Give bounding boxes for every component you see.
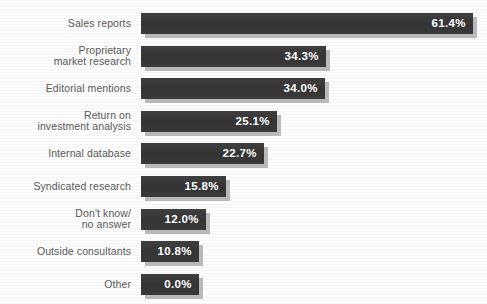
bar: 12.0%	[141, 209, 206, 230]
category-label: Editorial mentions	[0, 83, 131, 95]
category-label: Sales reports	[0, 18, 131, 30]
bar: 25.1%	[141, 111, 277, 132]
category-label: Outside consultants	[0, 246, 131, 258]
chart-row: Syndicated research15.8%	[0, 176, 487, 197]
chart-row: Proprietary market research34.3%	[0, 46, 487, 67]
chart-row: Editorial mentions34.0%	[0, 78, 487, 99]
bar-value-label: 12.0%	[164, 209, 199, 230]
category-label: Internal database	[0, 148, 131, 160]
chart-row: Sales reports61.4%	[0, 13, 487, 34]
bar: 15.8%	[141, 176, 226, 197]
bar-value-label: 10.8%	[157, 241, 192, 262]
bar-value-label: 0.0%	[164, 274, 192, 295]
category-label: Don't know/ no answer	[0, 208, 131, 231]
bar-value-label: 34.0%	[283, 78, 318, 99]
bar: 22.7%	[141, 143, 264, 164]
chart-row: Internal database22.7%	[0, 143, 487, 164]
bar-value-label: 22.7%	[222, 143, 257, 164]
chart-row: Return on investment analysis25.1%	[0, 111, 487, 132]
chart-row: Don't know/ no answer12.0%	[0, 209, 487, 230]
bar-value-label: 25.1%	[235, 111, 270, 132]
bar-value-label: 34.3%	[284, 46, 319, 67]
bar-fill	[141, 13, 473, 34]
chart-row: Outside consultants10.8%	[0, 241, 487, 262]
bar-value-label: 15.8%	[184, 176, 219, 197]
bar: 10.8%	[141, 241, 199, 262]
bar: 61.4%	[141, 13, 473, 34]
category-label: Return on investment analysis	[0, 110, 131, 133]
category-label: Proprietary market research	[0, 45, 131, 68]
category-label: Other	[0, 279, 131, 291]
bar: 34.0%	[141, 78, 325, 99]
category-label: Syndicated research	[0, 181, 131, 193]
chart-row: Other0.0%	[0, 274, 487, 295]
bar: 34.3%	[141, 46, 326, 67]
bar: 0.0%	[141, 274, 199, 295]
bar-value-label: 61.4%	[431, 13, 466, 34]
bar-chart: Sales reports61.4%Proprietary market res…	[0, 0, 487, 304]
